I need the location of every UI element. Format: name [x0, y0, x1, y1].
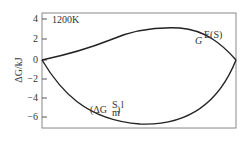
ytick-4: 4 — [33, 13, 38, 24]
ytick-2: 2 — [33, 33, 38, 44]
series-label-gibbs-mixing: (ΔG m S ) l — [90, 99, 124, 118]
ytick-0: 0 — [33, 54, 38, 65]
svg-text:l: l — [121, 99, 124, 110]
ytick-neg6: −6 — [27, 111, 38, 122]
svg-text:): ) — [117, 104, 120, 116]
ytick-neg4: −4 — [27, 92, 38, 103]
y-axis-label: ΔG/kJ — [13, 57, 24, 82]
svg-text:E(S): E(S) — [204, 29, 222, 41]
temperature-annotation: 1200K — [52, 14, 80, 25]
svg-text:(ΔG: (ΔG — [90, 104, 107, 116]
chart-canvas: 4 2 0 −2 −4 −6 ΔG/kJ 1200K G E(S) (ΔG m … — [0, 0, 251, 141]
ytick-neg2: −2 — [27, 73, 38, 84]
svg-text:G: G — [195, 35, 202, 46]
series-gibbs-mixing-liquid-line — [42, 60, 236, 124]
y-axis-tick-labels: 4 2 0 −2 −4 −6 — [27, 13, 38, 122]
